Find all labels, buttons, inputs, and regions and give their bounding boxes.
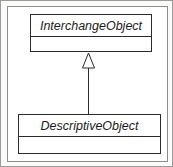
diagram-canvas: InterchangeObject DescriptiveObject — [7, 6, 168, 162]
uml-class-interchange-object[interactable]: InterchangeObject — [30, 14, 152, 52]
generalization-arrowhead-icon — [81, 52, 96, 69]
diagram-frame: InterchangeObject DescriptiveObject — [0, 0, 173, 167]
generalization-connector-line[interactable] — [88, 68, 89, 114]
uml-class-descriptive-object[interactable]: DescriptiveObject — [18, 114, 161, 154]
uml-class-attributes-interchange-object — [31, 37, 151, 52]
uml-class-name-descriptive-object: DescriptiveObject — [19, 115, 160, 137]
uml-class-attributes-descriptive-object — [19, 137, 160, 154]
uml-class-name-interchange-object: InterchangeObject — [31, 15, 151, 37]
